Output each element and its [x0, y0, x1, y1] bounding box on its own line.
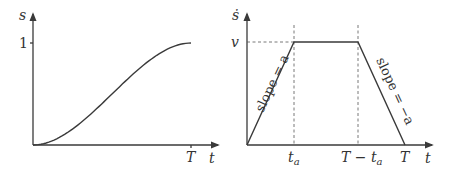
left-plot: s 1 T t	[19, 7, 218, 166]
right-y-axis-label: ṡ	[232, 7, 239, 23]
left-x-tick-label: T	[186, 149, 197, 165]
left-y-axis-label: s	[19, 7, 26, 23]
right-y-tick-label-v: v	[231, 34, 239, 50]
slope-up-label: slope = a	[252, 52, 292, 114]
x-tick-label-ta: ta	[288, 149, 300, 167]
right-x-axis-label: t	[425, 150, 431, 166]
left-x-axis-label: t	[209, 150, 215, 166]
left-s-curve	[33, 43, 191, 145]
figure: s 1 T t ṡ v ta T − ta T t slope = a slop…	[0, 0, 451, 169]
left-y-tick-label: 1	[19, 35, 28, 51]
x-tick-label-T: T	[400, 149, 411, 165]
right-plot: ṡ v ta T − ta T t slope = a slope = −a	[231, 7, 432, 167]
x-tick-label-T-minus-ta: T − ta	[341, 149, 383, 167]
